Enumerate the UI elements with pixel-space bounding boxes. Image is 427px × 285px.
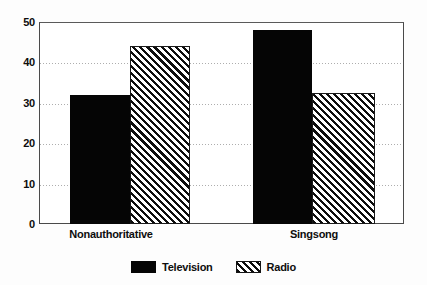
bar-radio-nonauthoritative <box>130 46 190 224</box>
category-label-singsong: Singsong <box>253 229 375 240</box>
y-tick-label-20: 20 <box>1 138 35 149</box>
legend-item-television: Television <box>131 261 212 273</box>
legend-label-radio: Radio <box>267 262 296 273</box>
bar-radio-singsong <box>312 93 375 224</box>
bar-television-singsong <box>253 30 312 224</box>
y-tick-label-40: 40 <box>1 57 35 68</box>
y-tick-label-10: 10 <box>1 178 35 189</box>
diagonal-hatch-swatch-icon <box>236 261 261 273</box>
legend-label-television: Television <box>162 262 212 273</box>
chart-legend: Television Radio <box>0 261 427 273</box>
bar-television-nonauthoritative <box>70 95 130 224</box>
bar-chart: 50 40 30 20 10 0 Nonauthoritative Singso… <box>0 0 427 285</box>
y-tick-label-30: 30 <box>1 97 35 108</box>
solid-black-swatch-icon <box>131 261 156 273</box>
bars-layer <box>39 22 404 224</box>
y-tick-label-50: 50 <box>1 17 35 28</box>
y-tick-label-0: 0 <box>1 219 35 230</box>
legend-item-radio: Radio <box>236 261 296 273</box>
category-label-nonauthoritative: Nonauthoritative <box>40 229 182 240</box>
